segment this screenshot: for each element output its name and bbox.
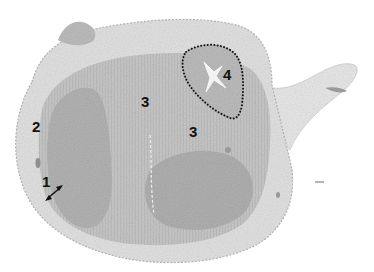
label-3-lower: 3 [189,123,197,140]
label-3-upper: 3 [141,93,149,110]
top-left-nodule [58,22,95,46]
dark-spot [276,192,280,198]
label-4: 4 [223,66,232,83]
dark-spot [225,147,231,153]
label-1: 1 [42,173,50,190]
dark-spot [36,158,41,168]
micrograph-figure: 1 2 3 3 4 [0,0,374,272]
label-2: 2 [32,118,40,135]
scale-mark [315,181,324,183]
lower-dark-mass [145,151,253,230]
